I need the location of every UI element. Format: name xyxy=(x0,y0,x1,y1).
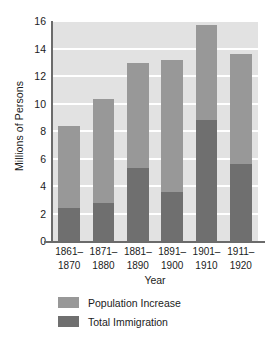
x-axis-tick-labels: 1861–18701871–18801881–18901891–19001901… xyxy=(52,245,258,277)
x-tick-label-line: 1870 xyxy=(52,259,86,273)
y-tick-label: 16 xyxy=(24,15,46,27)
bar-segment-total-immigration xyxy=(127,168,149,241)
bar-1871–1880 xyxy=(93,99,115,241)
x-tick-label: 1911–1920 xyxy=(224,245,258,272)
stacked-bar-chart: Millions of Persons 0246810121416 1861–1… xyxy=(0,0,279,339)
y-tick-label: 0 xyxy=(24,235,46,247)
bar-segment-total-immigration xyxy=(93,203,115,242)
bar-1881–1890 xyxy=(127,63,149,241)
x-tick-label-line: 1871– xyxy=(86,245,120,259)
bars-layer xyxy=(52,21,258,241)
x-tick-label: 1891–1900 xyxy=(155,245,189,272)
x-tick-label-line: 1911– xyxy=(224,245,258,259)
y-tick-label: 12 xyxy=(24,70,46,82)
y-tick-label: 10 xyxy=(24,98,46,110)
legend-item: Total Immigration xyxy=(58,312,258,331)
bar-1861–1870 xyxy=(58,126,80,242)
y-axis-tick-labels: 0246810121416 xyxy=(24,0,46,339)
y-tick-label: 14 xyxy=(24,43,46,55)
chart-legend: Population IncreaseTotal Immigration xyxy=(58,293,258,331)
x-tick-label-line: 1910 xyxy=(189,259,223,273)
legend-swatch xyxy=(58,297,79,308)
bar-segment-total-immigration xyxy=(230,164,252,241)
plot-area xyxy=(52,21,258,241)
bar-segment-total-immigration xyxy=(161,192,183,242)
bar-segment-population-increase xyxy=(161,60,183,192)
bar-1891–1900 xyxy=(161,60,183,242)
y-tick-label: 6 xyxy=(24,153,46,165)
x-tick-label: 1871–1880 xyxy=(86,245,120,272)
y-tick-label: 2 xyxy=(24,208,46,220)
x-tick-label-line: 1880 xyxy=(86,259,120,273)
x-tick-label: 1861–1870 xyxy=(52,245,86,272)
x-axis-line xyxy=(44,241,265,243)
bar-segment-total-immigration xyxy=(196,120,218,241)
bar-segment-population-increase xyxy=(127,63,149,168)
bar-segment-total-immigration xyxy=(58,208,80,241)
x-tick-label-line: 1890 xyxy=(121,259,155,273)
legend-swatch xyxy=(58,316,79,327)
bar-1901–1910 xyxy=(196,25,218,241)
x-tick-label: 1881–1890 xyxy=(121,245,155,272)
bar-segment-population-increase xyxy=(196,25,218,120)
legend-item: Population Increase xyxy=(58,293,258,312)
x-tick-label-line: 1881– xyxy=(121,245,155,259)
x-tick-label-line: 1891– xyxy=(155,245,189,259)
legend-label: Population Increase xyxy=(88,297,181,309)
legend-label: Total Immigration xyxy=(88,316,168,328)
bar-segment-population-increase xyxy=(93,99,115,202)
y-tick-label: 8 xyxy=(24,125,46,137)
x-tick-label-line: 1900 xyxy=(155,259,189,273)
x-tick-label: 1901–1910 xyxy=(189,245,223,272)
bar-segment-population-increase xyxy=(58,126,80,209)
bar-1911–1920 xyxy=(230,54,252,241)
bar-segment-population-increase xyxy=(230,54,252,164)
y-axis-line xyxy=(51,21,53,242)
y-tick-label: 4 xyxy=(24,180,46,192)
x-tick-label-line: 1901– xyxy=(189,245,223,259)
x-axis-title: Year xyxy=(52,274,258,286)
x-tick-label-line: 1920 xyxy=(224,259,258,273)
x-tick-label-line: 1861– xyxy=(52,245,86,259)
